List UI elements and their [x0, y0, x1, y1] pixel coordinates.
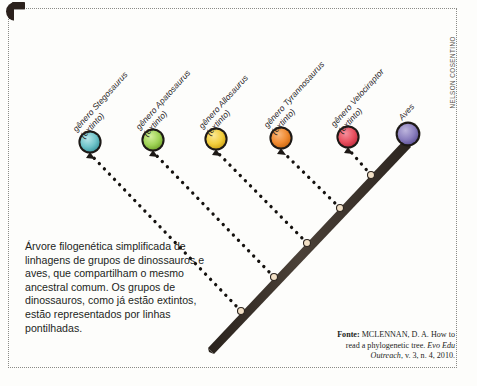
source-volume: v. 3, n. 4, 2010.	[405, 351, 455, 360]
figure-caption: Árvore filogenética simplificada de linh…	[25, 240, 205, 335]
source-sep: ,	[401, 351, 403, 360]
figure-source-citation: Fonte: MCLENNAN, D. A. How to read a phy…	[330, 330, 455, 362]
source-author: MCLENNAN, D. A.	[362, 330, 429, 339]
source-prefix: Fonte:	[337, 330, 359, 339]
image-credit: NELSON COSENTINO	[449, 0, 456, 109]
figure-page: NELSON COSENTINO	[0, 0, 477, 386]
